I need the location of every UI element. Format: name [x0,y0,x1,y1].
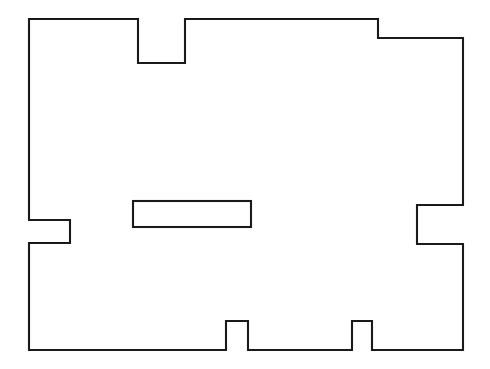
outer-wall-outline [29,19,463,350]
floor-plan-svg [0,0,490,369]
interior-rectangle [133,201,251,227]
drawing-canvas [0,0,490,369]
